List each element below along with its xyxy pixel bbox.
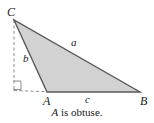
figure-caption: A is obtuse. [0, 106, 154, 118]
side-label-a: a [71, 37, 77, 48]
side-label-b: b [23, 53, 29, 64]
triangle-shape [14, 20, 140, 92]
caption-text: is obtuse. [58, 106, 102, 118]
dashed-base-extension-line [14, 91, 47, 92]
side-label-c: c [85, 94, 90, 105]
obtuse-triangle-figure: C A B a b c A is obtuse. [0, 0, 154, 123]
vertex-label-c: C [7, 6, 15, 18]
